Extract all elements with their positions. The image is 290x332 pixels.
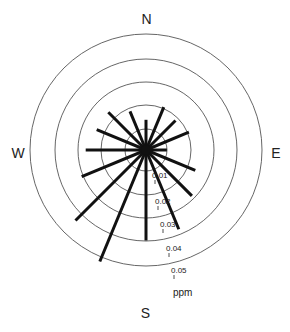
direction-spokes	[76, 107, 196, 261]
spoke-SW	[76, 150, 147, 221]
compass-label-north: N	[141, 11, 151, 27]
spoke-NE	[146, 121, 176, 151]
scale-label-0.01: 0.01	[152, 171, 168, 180]
spoke-NW	[108, 112, 146, 150]
compass-label-west: W	[11, 145, 25, 161]
compass-label-east: E	[271, 145, 280, 161]
center-hub	[141, 145, 151, 155]
unit-label: ppm	[173, 287, 192, 298]
compass-label-south: S	[141, 305, 150, 321]
scale-label-0.03: 0.03	[160, 220, 176, 229]
scale-label-0.04: 0.04	[166, 244, 182, 253]
pollution-rose-chart: N E S W 0.01 0.02 0.03 0.04 0.05 ppm	[0, 0, 290, 332]
scale-label-0.05: 0.05	[171, 266, 187, 275]
scale-label-0.02: 0.02	[155, 197, 171, 206]
